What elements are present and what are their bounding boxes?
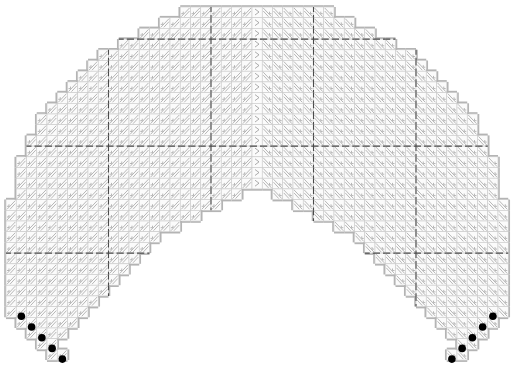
grid-cell: [252, 39, 262, 50]
bead-marker-icon: [18, 313, 26, 321]
grid-cell: [252, 7, 262, 18]
grid-cell: [252, 71, 262, 82]
grid-cell: [252, 178, 262, 189]
grid-cell: [252, 103, 262, 114]
bead-marker-icon: [38, 334, 46, 342]
grid-cell: [252, 168, 262, 179]
grid-cell: [252, 82, 262, 93]
bead-marker-icon: [489, 313, 497, 321]
grid-cell: [252, 28, 262, 39]
grid-cell: [252, 18, 262, 29]
bead-marker-icon: [28, 323, 36, 331]
grid-cell: [252, 114, 262, 125]
bead-marker-icon: [458, 345, 466, 353]
bead-marker-icon: [479, 323, 487, 331]
bead-marker-icon: [469, 334, 477, 342]
bead-marker-icon: [59, 355, 67, 363]
grid-cell: [252, 125, 262, 136]
grid-cell: [252, 61, 262, 72]
bead-marker-icon: [448, 355, 456, 363]
grid-cell: [252, 93, 262, 104]
bead-marker-icon: [48, 345, 56, 353]
grid-cell: [252, 50, 262, 61]
stitch-chart: [0, 0, 513, 369]
grid-cell: [252, 135, 262, 146]
grid-cell: [252, 157, 262, 168]
grid-cell: [252, 146, 262, 157]
stitch-chart-canvas: [0, 0, 513, 369]
bead-markers: [18, 313, 497, 363]
